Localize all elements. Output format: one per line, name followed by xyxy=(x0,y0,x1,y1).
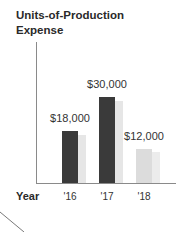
value-label-2016: $18,000 xyxy=(40,112,100,124)
bar-2017 xyxy=(99,97,115,183)
y-axis xyxy=(36,42,37,183)
bar-2016 xyxy=(62,131,78,183)
x-axis xyxy=(36,183,176,184)
bar-2018 xyxy=(136,149,152,183)
bar-shadow-2016 xyxy=(78,135,86,183)
value-label-2018: $12,000 xyxy=(114,130,174,142)
value-label-2017: $30,000 xyxy=(77,78,137,90)
bar-shadow-2018 xyxy=(152,152,160,183)
chart-title-line-1: Units-of-Production xyxy=(16,8,124,23)
bar-shadow-2017 xyxy=(115,101,123,183)
decorative-diagonal-line xyxy=(0,210,30,232)
x-axis-label: Year xyxy=(16,190,39,202)
tick-label-2016: '16 xyxy=(55,191,85,202)
tick-label-2018: '18 xyxy=(129,191,159,202)
chart-title-line-2: Expense xyxy=(16,23,124,38)
chart-title: Units-of-Production Expense xyxy=(16,8,124,38)
tick-label-2017: '17 xyxy=(92,191,122,202)
